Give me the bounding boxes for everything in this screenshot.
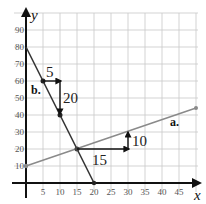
slope-chart: x y 5 10 15 20 25 30 35 40 45 10 20 30 4… xyxy=(0,0,206,204)
x-axis-label: x xyxy=(193,187,201,203)
run-label-a: 15 xyxy=(92,152,107,168)
line-a-end-point xyxy=(194,106,198,110)
svg-text:40: 40 xyxy=(158,187,168,197)
rise-label-a: 10 xyxy=(132,133,147,149)
svg-text:20: 20 xyxy=(90,187,100,197)
line-b-label: b. xyxy=(31,83,41,97)
svg-text:5: 5 xyxy=(41,187,46,197)
svg-text:35: 35 xyxy=(141,187,151,197)
svg-text:50: 50 xyxy=(15,93,25,103)
svg-text:30: 30 xyxy=(124,187,134,197)
svg-text:45: 45 xyxy=(175,187,185,197)
svg-text:70: 70 xyxy=(15,59,25,69)
svg-text:80: 80 xyxy=(15,42,25,52)
svg-text:90: 90 xyxy=(15,25,25,35)
line-a-start-point xyxy=(24,164,28,168)
svg-text:60: 60 xyxy=(15,76,25,86)
y-axis-label: y xyxy=(29,7,38,23)
svg-text:15: 15 xyxy=(73,187,83,197)
line-b-x-intercept xyxy=(92,181,96,185)
svg-text:10: 10 xyxy=(15,161,25,171)
x-tick-labels: 5 10 15 20 25 30 35 40 45 xyxy=(41,187,184,197)
line-a-label: a. xyxy=(170,115,179,129)
svg-text:10: 10 xyxy=(56,187,66,197)
y-tick-labels: 10 20 30 40 50 60 70 80 90 xyxy=(15,25,25,171)
svg-text:30: 30 xyxy=(15,127,25,137)
svg-text:25: 25 xyxy=(107,187,117,197)
run-label-b: 5 xyxy=(46,64,54,80)
rise-label-b: 20 xyxy=(63,90,78,106)
svg-text:40: 40 xyxy=(15,110,25,120)
svg-text:20: 20 xyxy=(15,144,25,154)
